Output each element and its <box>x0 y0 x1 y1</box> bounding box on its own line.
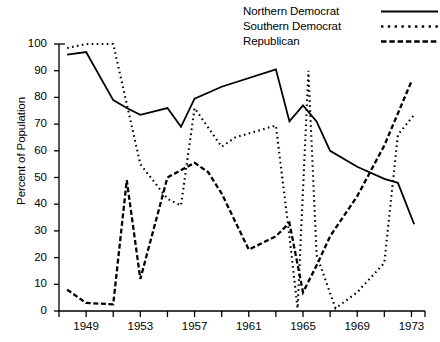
chart-legend: Northern Democrat Southern Democrat Repu… <box>243 4 438 48</box>
y-tick-label: 90 <box>17 65 47 77</box>
series-line-republican <box>67 81 411 304</box>
legend-item-northern-democrat: Northern Democrat <box>243 4 438 18</box>
y-tick-label: 30 <box>17 225 47 237</box>
legend-label-southern-democrat: Southern Democrat <box>243 19 341 33</box>
x-tick-label: 1965 <box>283 321 323 333</box>
y-tick-label: 60 <box>17 145 47 157</box>
y-tick-label: 0 <box>17 305 47 317</box>
y-tick-label: 80 <box>17 91 47 103</box>
series-line-northern-democrat <box>67 52 414 224</box>
series-line-southern-democrat <box>67 44 414 308</box>
y-tick-label: 20 <box>17 252 47 264</box>
legend-item-republican: Republican <box>243 34 438 48</box>
y-tick-label: 100 <box>17 38 47 50</box>
legend-line-dashed-icon <box>381 40 438 43</box>
y-tick-label: 10 <box>17 278 47 290</box>
legend-line-dotted-icon <box>381 25 438 28</box>
x-tick-label: 1953 <box>120 321 160 333</box>
chart-plot-area <box>0 0 440 342</box>
x-tick-label: 1973 <box>391 321 431 333</box>
x-tick-label: 1961 <box>229 321 269 333</box>
legend-label-republican: Republican <box>243 34 300 48</box>
y-tick-label: 40 <box>17 198 47 210</box>
x-tick-label: 1957 <box>175 321 215 333</box>
legend-item-southern-democrat: Southern Democrat <box>243 19 438 33</box>
x-tick-label: 1969 <box>337 321 377 333</box>
y-tick-label: 50 <box>17 172 47 184</box>
legend-label-northern-democrat: Northern Democrat <box>243 4 339 18</box>
x-tick-label: 1949 <box>66 321 106 333</box>
legend-line-solid-icon <box>381 10 438 13</box>
chart-figure: Northern Democrat Southern Democrat Repu… <box>0 0 440 342</box>
y-tick-label: 70 <box>17 118 47 130</box>
